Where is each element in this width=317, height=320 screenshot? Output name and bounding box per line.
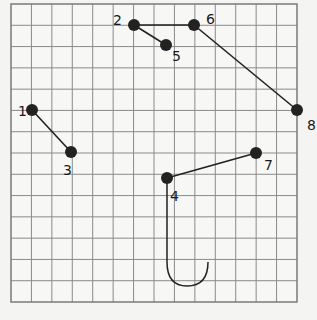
point-1-label: 1 <box>18 103 27 119</box>
point-4-label: 4 <box>170 188 179 204</box>
point-3-label: 3 <box>63 162 72 178</box>
point-4-dot <box>161 172 173 184</box>
point-5-label: 5 <box>172 48 181 64</box>
point-3-dot <box>65 146 77 158</box>
point-2-dot <box>128 19 140 31</box>
point-6-label: 6 <box>206 11 215 27</box>
point-1-dot <box>26 104 38 116</box>
point-8-dot <box>291 104 303 116</box>
point-6-dot <box>188 19 200 31</box>
point-2-label: 2 <box>113 12 122 28</box>
point-7-label: 7 <box>264 157 273 173</box>
point-5-dot <box>160 39 172 51</box>
point-8-label: 8 <box>307 117 316 133</box>
grid-diagram: 12345678 <box>0 0 317 320</box>
point-7-dot <box>250 147 262 159</box>
